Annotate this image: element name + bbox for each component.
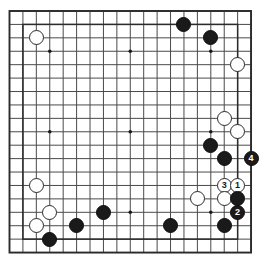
go-board-diagram: 4312 (0, 0, 262, 275)
black-stone-h4 (96, 205, 111, 220)
black-stone-q8 (217, 151, 232, 166)
move-number-label: 4 (249, 154, 254, 163)
black-stone-p9 (203, 138, 218, 153)
black-stone-d2 (42, 232, 57, 247)
black-stone-q3 (217, 218, 232, 233)
white-stone-q11 (217, 111, 232, 126)
move-number-label: 1 (235, 181, 240, 190)
white-stone-d4 (42, 205, 57, 220)
white-stone-c3 (29, 218, 44, 233)
black-stone-move-2: 2 (230, 205, 245, 220)
white-stone-c6 (29, 178, 44, 193)
move-number-label: 2 (235, 208, 240, 217)
black-stone-move-4: 4 (244, 151, 259, 166)
move-number-label: 3 (222, 181, 227, 190)
